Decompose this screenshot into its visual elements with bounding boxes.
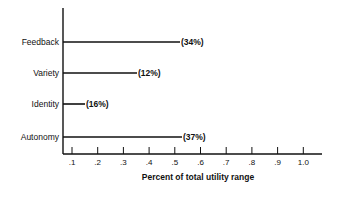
utility-range-chart: .1.2.3.4.5.6.7.8.91.0 Feedback(34%)Varie… [0, 0, 337, 197]
x-tick-label: .8 [249, 158, 256, 167]
x-axis-label: Percent of total utility range [142, 172, 255, 182]
category-label: Feedback [22, 37, 60, 47]
x-ticks: .1.2.3.4.5.6.7.8.91.0 [69, 147, 310, 167]
x-tick-label: .7 [223, 158, 230, 167]
x-tick-label: .2 [94, 158, 101, 167]
x-tick-label: .5 [171, 158, 178, 167]
value-label: (34%) [181, 37, 204, 47]
value-label: (37%) [183, 132, 206, 142]
bar-identity: Identity(16%) [32, 99, 109, 109]
category-label: Identity [32, 99, 60, 109]
x-tick-label: .3 [120, 158, 127, 167]
value-label: (16%) [86, 99, 109, 109]
x-tick-label: .6 [197, 158, 204, 167]
category-label: Autonomy [21, 132, 60, 142]
x-tick-label: .4 [146, 158, 153, 167]
bar-variety: Variety(12%) [33, 68, 161, 78]
bar-autonomy: Autonomy(37%) [21, 132, 206, 142]
value-label: (12%) [138, 68, 161, 78]
x-tick-label: .9 [274, 158, 281, 167]
bar-feedback: Feedback(34%) [22, 37, 204, 47]
bars: Feedback(34%)Variety(12%)Identity(16%)Au… [21, 37, 206, 142]
category-label: Variety [33, 68, 60, 78]
x-tick-label: .1 [69, 158, 76, 167]
x-tick-label: 1.0 [298, 158, 310, 167]
